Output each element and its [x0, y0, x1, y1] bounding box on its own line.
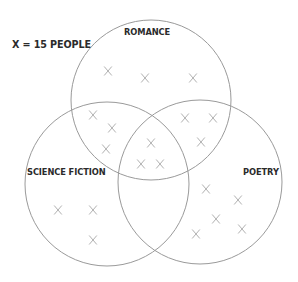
x-mark-icon — [54, 206, 61, 214]
x-mark-icon — [238, 225, 245, 233]
x-mark-icon — [147, 139, 154, 147]
legend-label: X = 15 PEOPLE — [12, 39, 91, 50]
poetry-label: POETRY — [243, 167, 279, 177]
x-mark-icon — [108, 124, 115, 132]
science-fiction-circle — [25, 102, 189, 266]
x-mark-icon — [89, 206, 96, 214]
set-circles — [25, 20, 282, 266]
x-mark-icon — [189, 74, 196, 82]
x-mark-icon — [212, 215, 219, 223]
poetry-circle — [118, 100, 282, 264]
x-mark-icon — [102, 145, 109, 153]
x-mark-icon — [89, 111, 96, 119]
x-mark-icon — [202, 185, 209, 193]
x-mark-icon — [156, 160, 163, 168]
x-mark-icon — [197, 138, 204, 146]
science-fiction-label: SCIENCE FICTION — [27, 167, 106, 177]
x-mark-icon — [234, 196, 241, 204]
romance-label: ROMANCE — [124, 27, 170, 37]
x-mark-icon — [192, 230, 199, 238]
x-mark-icon — [209, 114, 216, 122]
x-mark-icon — [137, 160, 144, 168]
x-mark-icon — [181, 114, 188, 122]
person-marks — [54, 67, 245, 244]
x-mark-icon — [141, 74, 148, 82]
x-mark-icon — [89, 236, 96, 244]
x-mark-icon — [104, 67, 111, 75]
